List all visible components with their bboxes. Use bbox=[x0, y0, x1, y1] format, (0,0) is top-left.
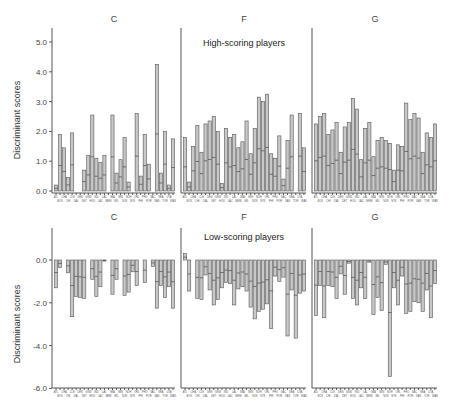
x-category-label: MIL bbox=[114, 394, 119, 398]
x-category-label: CHI bbox=[326, 199, 331, 203]
x-category-label: CHA bbox=[61, 390, 67, 394]
x-category-label: ORL bbox=[134, 390, 140, 394]
bar: ORL: 3.25 bbox=[265, 94, 268, 191]
panel-title-top-f: F bbox=[241, 14, 247, 24]
bar: DET: -2.1 bbox=[212, 260, 215, 305]
bar: GSW: 2 bbox=[216, 131, 219, 191]
bar: NOH: -2.4 bbox=[257, 260, 260, 311]
bar: BOS: 2.5 bbox=[319, 117, 322, 192]
x-category-label: SAC bbox=[412, 390, 417, 394]
x-category-label: DET bbox=[342, 394, 348, 398]
bar: POR: 2.4 bbox=[409, 119, 412, 191]
panel-low-scoring-players-f: ATLATL: 0.3BOSBOS: -1.45CHACHICHI: -1.8C… bbox=[181, 228, 307, 398]
panel-low-scoring-players-c: 0.0-2.0-4.0-6.0ATLATL: -1.3BOSBOS: -0.35… bbox=[33, 228, 176, 398]
x-category-label: PHI bbox=[269, 199, 274, 203]
bar: MIN: -2.35 bbox=[380, 260, 383, 310]
bar: ORL: -2.05 bbox=[265, 260, 268, 304]
top-group-subtitle: High-scoring players bbox=[203, 38, 286, 48]
x-category-label: SAC bbox=[281, 195, 286, 199]
x-category-label: DEN bbox=[338, 195, 344, 199]
x-category-label: MIA bbox=[371, 195, 376, 199]
x-category-label: MEM bbox=[366, 394, 372, 398]
bar: MEM: 2.3 bbox=[368, 122, 371, 191]
bar: SAC: 0.4 bbox=[282, 179, 285, 191]
bar: HOU: 2.55 bbox=[91, 115, 94, 191]
bar: ORL: -1.2 bbox=[135, 260, 138, 286]
bar: LAC: 0.95 bbox=[99, 163, 102, 191]
x-category-label: BOS bbox=[57, 394, 63, 398]
bar: IND: 2.1 bbox=[224, 128, 227, 191]
x-category-label: NOH bbox=[126, 195, 132, 199]
x-category-label: BOS bbox=[317, 199, 323, 203]
x-category-label: CHA bbox=[322, 390, 328, 394]
x-category-label: HOU bbox=[89, 199, 95, 203]
x-category-label: PHI bbox=[269, 394, 274, 398]
x-category-label: DET bbox=[211, 199, 217, 203]
bar: SEA: -1.2 bbox=[159, 260, 162, 286]
bar: LAL: 2.1 bbox=[364, 128, 367, 191]
x-category-label: BOS bbox=[186, 199, 192, 203]
bar: GSW: -1.85 bbox=[216, 260, 219, 300]
bar: NOH: -5.45 bbox=[388, 260, 391, 377]
x-category-label: NYK bbox=[130, 394, 136, 398]
x-category-label: MIN bbox=[248, 390, 253, 394]
x-category-label: HOU bbox=[89, 394, 95, 398]
x-category-label: IND bbox=[355, 195, 360, 199]
x-category-label: LAL bbox=[102, 390, 107, 394]
bar: MIA: 1.15 bbox=[372, 157, 375, 191]
x-category-label: SAS bbox=[416, 199, 421, 203]
x-category-label: UTA bbox=[297, 390, 302, 394]
x-category-label: NYK bbox=[260, 199, 266, 203]
bar: CHA: 2.6 bbox=[323, 114, 326, 191]
bar: IND: -2.1 bbox=[355, 260, 358, 305]
x-category-label: PHO bbox=[142, 195, 148, 199]
bar: MIL: -0.9 bbox=[115, 260, 118, 279]
x-category-label: WAS bbox=[301, 394, 307, 398]
bar: MIA: 2.55 bbox=[111, 115, 114, 191]
bar: WAS: 2.25 bbox=[433, 124, 436, 191]
x-category-label: LAL bbox=[232, 390, 237, 394]
bar: ORL: 1.55 bbox=[396, 145, 399, 191]
bar: CHI: 1.9 bbox=[327, 134, 330, 191]
panel-title-bottom-c: C bbox=[111, 212, 118, 222]
x-category-label: MEM bbox=[235, 394, 241, 398]
bar: DEN: -0.65 bbox=[339, 260, 342, 274]
x-category-label: BOS bbox=[57, 199, 63, 203]
y-tick-label: 1.0 bbox=[36, 157, 48, 166]
x-category-label: LAL bbox=[232, 195, 237, 199]
x-category-label: DAL bbox=[334, 394, 340, 398]
x-category-label: ATL bbox=[54, 195, 59, 199]
x-category-label: DET bbox=[82, 394, 88, 398]
bar: SAC: -1.95 bbox=[413, 260, 416, 302]
x-category-label: CLE bbox=[199, 195, 204, 199]
bar: SAS: 4.25 bbox=[155, 64, 158, 191]
bar: NOH: 3.15 bbox=[257, 97, 260, 191]
x-category-label: PHO bbox=[272, 390, 278, 394]
y-tick-label: 5.0 bbox=[36, 38, 48, 47]
bar: DEN: 2.35 bbox=[208, 121, 211, 191]
bar: DET: 0.7 bbox=[83, 170, 86, 191]
bar: DET: 2.5 bbox=[212, 117, 215, 192]
bar: NOH: 0.3 bbox=[127, 182, 130, 191]
bar: HOU: 0.25 bbox=[220, 184, 223, 191]
bar: UTA: 2.6 bbox=[298, 114, 301, 191]
x-category-label: LAC bbox=[228, 199, 233, 203]
bar: UTA: 1.8 bbox=[429, 137, 432, 191]
x-category-label: GSW bbox=[215, 195, 222, 199]
bar: NYK: -2.3 bbox=[261, 260, 264, 309]
bar: WAS: 1.45 bbox=[302, 148, 305, 191]
x-category-label: PHO bbox=[142, 390, 148, 394]
x-category-label: SAS bbox=[154, 199, 159, 203]
bar: LAC: 1.8 bbox=[229, 137, 232, 191]
bar: MIA: -2.55 bbox=[372, 260, 375, 315]
bar: DET: 2.15 bbox=[343, 127, 346, 191]
x-category-label: SAS bbox=[285, 199, 290, 203]
discriminant-scores-figure: C F G High-scoring players Discriminant … bbox=[0, 0, 449, 415]
bar: LAL: -1.8 bbox=[364, 260, 367, 299]
x-category-label: NYK bbox=[391, 394, 397, 398]
x-category-label: UTA bbox=[428, 195, 433, 199]
bar: POR: 0.9 bbox=[147, 164, 150, 191]
bar: GSW: 2.3 bbox=[347, 122, 350, 191]
x-category-label: NOH bbox=[387, 390, 393, 394]
x-category-label: NOH bbox=[256, 195, 262, 199]
